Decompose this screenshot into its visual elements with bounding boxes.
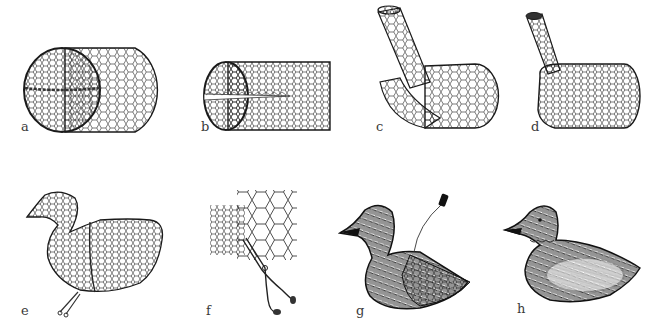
panel-a-drawing [24, 48, 157, 132]
illustration-svg [0, 0, 662, 333]
panel-g-drawing [340, 193, 470, 308]
panel-label-b: b [201, 120, 209, 133]
panel-c-drawing [378, 6, 498, 128]
panel-e-drawing [27, 192, 163, 317]
panel-b-drawing [204, 62, 330, 130]
illustration-plate: a b c d e f g h [0, 0, 662, 333]
panel-label-d: d [531, 120, 539, 133]
panel-d-drawing [526, 13, 640, 129]
panel-f-drawing [210, 190, 297, 315]
panel-label-e: e [21, 304, 29, 317]
panel-h-drawing [503, 206, 640, 302]
panel-label-f: f [206, 304, 211, 317]
panel-label-h: h [517, 302, 525, 315]
panel-label-a: a [21, 120, 29, 133]
panel-label-g: g [356, 304, 364, 317]
panel-label-c: c [376, 120, 383, 133]
